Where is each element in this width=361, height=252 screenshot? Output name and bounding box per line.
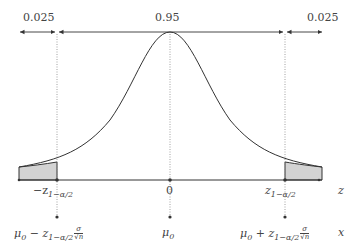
- distribution-diagram: [0, 0, 361, 252]
- z-zero-label: 0: [166, 184, 173, 197]
- left-tail-shade: [19, 162, 57, 180]
- right-critical-z-label: z1−α/2: [265, 184, 296, 199]
- right-tail-shade: [285, 162, 322, 180]
- right-tail-probability: 0.025: [307, 11, 339, 24]
- density-curve: [19, 32, 322, 167]
- center-probability: 0.95: [155, 11, 180, 24]
- left-critical-x-label: μ0 − z1−α/2σ√n: [14, 226, 83, 242]
- right-critical-x-label: μ0 + z1−α/2σ√n: [240, 226, 309, 242]
- z-axis-label: z: [338, 184, 344, 197]
- left-tail-probability: 0.025: [23, 11, 55, 24]
- x-axis-label: x: [338, 226, 344, 239]
- left-critical-z-label: −z1−α/2: [33, 184, 73, 199]
- mu0-label: μ0: [162, 226, 174, 241]
